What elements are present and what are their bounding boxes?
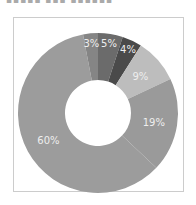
slice-label: 60%: [37, 135, 59, 146]
slice-label: 5%: [101, 38, 117, 49]
slice-label: 9%: [132, 71, 148, 82]
donut-chart: 5%4%9%19%60%3%: [0, 0, 196, 205]
slice-label: 3%: [83, 38, 99, 49]
slice-label: 4%: [120, 44, 136, 55]
slice-label: 19%: [143, 117, 165, 128]
